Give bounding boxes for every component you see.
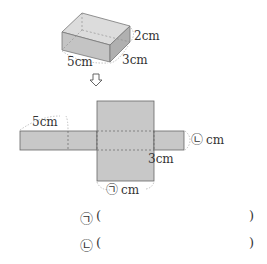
- answer-row-2: ㉡ ( ): [80, 235, 260, 253]
- down-arrow-icon: [90, 74, 102, 86]
- answer-row-1: ㉠ ( ): [80, 208, 260, 226]
- answer-close-paren-1: ): [249, 208, 254, 223]
- answer-input-1[interactable]: [106, 208, 246, 224]
- net-right-depth-label: 3cm: [148, 152, 174, 166]
- height-label: 2cm: [134, 29, 160, 43]
- answer-close-paren-2: ): [249, 235, 254, 250]
- net: 5cm ㉡ cm 3cm ㉠ cm: [20, 101, 225, 197]
- answer-open-paren-1: (: [96, 208, 101, 223]
- length-label: 5cm: [67, 55, 93, 69]
- depth-label: 3cm: [122, 53, 148, 67]
- cuboid: 2cm 3cm 5cm: [62, 13, 160, 69]
- answer-input-2[interactable]: [106, 235, 246, 251]
- net-right-strip: [154, 131, 184, 150]
- answer-marker-1: ㉠: [80, 208, 93, 227]
- net-center-column: [97, 101, 154, 181]
- net-right-marker: ㉡: [191, 133, 203, 147]
- answer-marker-2: ㉡: [80, 235, 93, 254]
- net-top-left-label: 5cm: [32, 115, 58, 129]
- net-right-label: cm: [206, 133, 225, 147]
- net-bottom-marker: ㉠: [106, 183, 118, 197]
- net-bottom-label: cm: [121, 183, 140, 197]
- answer-open-paren-2: (: [96, 235, 101, 250]
- net-left-strip: [20, 131, 97, 150]
